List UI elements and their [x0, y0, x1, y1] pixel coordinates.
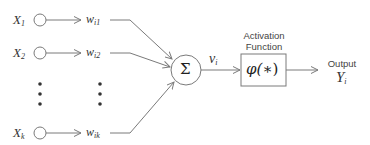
output-label: Yi [336, 70, 347, 86]
neuron-diagram: X1 X2 Xk wi1 wi2 wik Σ vi Activation Fun… [0, 0, 370, 145]
input-label-1: X1 [13, 13, 25, 28]
activation-formula: φ(∗) [246, 62, 278, 77]
weight-label-2: wi2 [86, 46, 100, 60]
input-label-2: X2 [13, 46, 25, 61]
input-node-2 [34, 47, 46, 59]
output-caption: Output [322, 58, 362, 69]
sigma-symbol: Σ [180, 62, 191, 77]
weight-label-1: wi1 [86, 13, 100, 27]
activation-caption: Activation Function [238, 30, 290, 52]
net-input-label: vi [209, 52, 217, 67]
input-node-k [34, 127, 46, 139]
input-node-1 [34, 14, 46, 26]
weight-label-k: wik [86, 126, 100, 140]
input-label-k: Xk [13, 126, 25, 141]
